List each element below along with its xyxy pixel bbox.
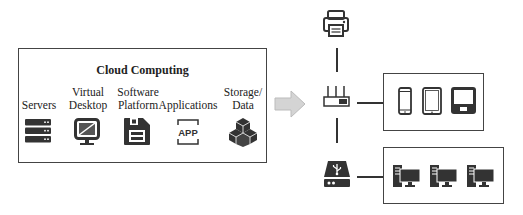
storage-data-label-line2: Data bbox=[219, 99, 267, 112]
router-icon bbox=[323, 86, 350, 108]
monitor-icon bbox=[74, 118, 100, 146]
cube-cluster-icon bbox=[229, 117, 257, 147]
virtual-desktop-label-line2: Desktop bbox=[63, 99, 113, 112]
desktop-computer-icon bbox=[467, 165, 495, 189]
usb-workstations-connector bbox=[357, 176, 383, 178]
applications-label: Applications bbox=[157, 99, 219, 112]
app-icon: APP bbox=[174, 118, 202, 146]
router-usb-connector bbox=[336, 118, 338, 143]
servers-label: Servers bbox=[17, 99, 61, 112]
storage-data-label: Storage/ Data bbox=[219, 86, 267, 112]
desktop-computer-icon bbox=[430, 165, 458, 189]
cloud-computing-title: Cloud Computing bbox=[19, 63, 266, 78]
right-arrow-icon bbox=[274, 90, 306, 118]
cloud-computing-box: Cloud Computing Servers Virtual Desktop … bbox=[18, 48, 267, 163]
smartphone-icon bbox=[398, 87, 412, 115]
tablet-icon bbox=[422, 87, 442, 115]
usb-drive-icon bbox=[324, 160, 350, 188]
mobile-devices-box bbox=[383, 73, 484, 131]
router-mobile-connector bbox=[357, 102, 383, 104]
desktop-computer-icon bbox=[393, 165, 421, 189]
floppy-disk-icon bbox=[124, 118, 150, 145]
virtual-desktop-label-line1: Virtual bbox=[63, 86, 113, 99]
printer-icon bbox=[323, 10, 349, 37]
printer-router-connector bbox=[336, 48, 338, 72]
laptop-icon bbox=[451, 87, 476, 115]
software-platform-label-line1: Software bbox=[111, 86, 165, 99]
storage-data-label-line1: Storage/ bbox=[219, 86, 267, 99]
app-icon-text: APP bbox=[178, 127, 198, 138]
server-stack-icon bbox=[25, 119, 51, 143]
virtual-desktop-label: Virtual Desktop bbox=[63, 86, 113, 112]
workstations-box bbox=[383, 147, 504, 204]
